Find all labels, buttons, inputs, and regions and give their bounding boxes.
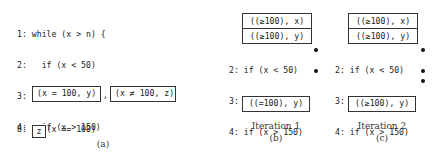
separator: , [103,90,108,100]
code-block-after: 8: if (x == 100) 9: z = y; [17,103,96,153]
caption-c: (c) [342,133,422,143]
iteration-title: Iteration 1 [236,121,316,131]
state-cell-x: ((≥100), x) [243,14,311,28]
state-box-bottom: ((=100), y) [242,96,310,112]
caption-a: (a) [88,139,118,149]
state-cell-y: ((≥100), y) [243,28,311,43]
code-line: 8: if (x == 100) [17,124,96,134]
state-cell-y: ((≥100), y) [349,28,417,43]
bullet-icon [421,69,425,73]
state-box-x-eq-100: (x = 100, y) [32,86,101,102]
caption-b: (b) [236,133,316,143]
state-box-x-neq-100: (x ≠ 100, z) [110,86,176,102]
code-line: 2: if (x < 50) [17,60,106,70]
state-cell-x: ((≥100), x) [349,14,417,28]
bullet-icon [314,69,318,73]
iteration-title: Iteration 2 [342,121,422,131]
bullet-icon [314,48,318,52]
code-line: 1: while (x > n) { [17,29,106,39]
state-box-z: z [32,125,46,138]
code-line: 2: if (x < 50) [335,65,409,75]
state-stack-top: ((≥100), x) ((≥100), y) [348,13,418,44]
bullet-icon [421,79,425,83]
bullet-icon [421,48,425,52]
state-box-bottom: ((≥100), y) [348,96,416,112]
state-stack-top: ((≥100), x) ((≥100), y) [242,13,312,44]
code-line: 2: if (x < 50) [229,65,303,75]
